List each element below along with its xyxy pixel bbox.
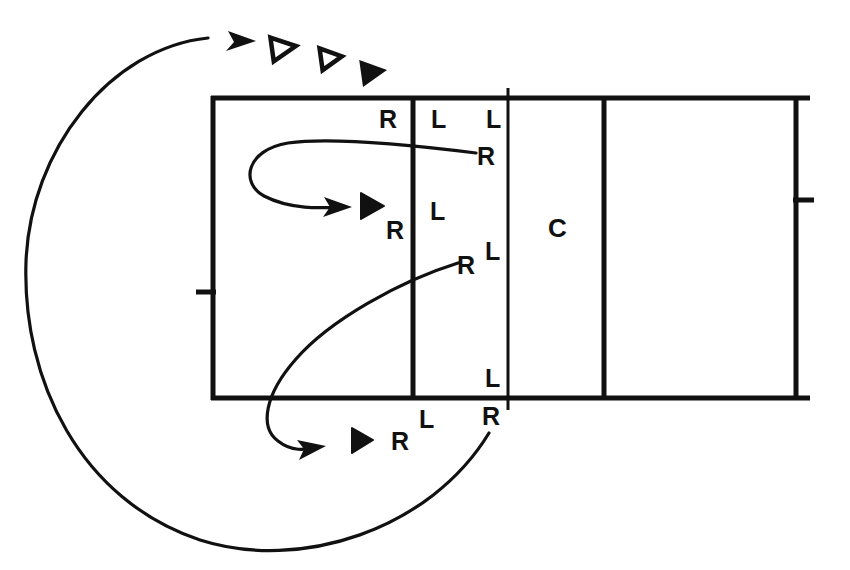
label-r-lower-curve: R [457,253,475,278]
label-r-top-left: R [379,107,397,132]
label-l-bottom-outside: L [419,407,434,432]
interior-triangle-markers [352,193,384,453]
outer-arc-path [26,38,489,551]
edge-ticks [196,200,814,292]
label-l-bottom-inside: L [485,366,500,391]
label-l-top-right: L [486,107,501,132]
label-r-mid-left: R [386,218,404,243]
triangle-hollow-2-icon [320,45,344,70]
diagram-svg [0,0,850,570]
triangle-hollow-1-icon [270,34,297,61]
triangle-filled-upper-loop-icon [361,193,384,219]
top-triangle-markers [270,34,386,85]
triangle-filled-top-icon [360,58,386,85]
outer-arc-arrowhead-icon [226,31,256,51]
label-l-mid-right: L [485,239,500,264]
label-l-top-mid: L [431,107,446,132]
label-c-center: C [548,215,567,241]
label-r-bottom-arrow: R [391,429,409,454]
outer-recirculation-arc [26,31,489,551]
band-dividers [413,88,604,410]
label-r-bottom-outside: R [482,404,500,429]
diagram-canvas: R L L R R L R L L L R R C [0,0,850,570]
label-l-mid: L [430,199,445,224]
triangle-filled-lower-loop-icon [352,428,373,453]
label-r-upper-curve: R [477,144,495,169]
